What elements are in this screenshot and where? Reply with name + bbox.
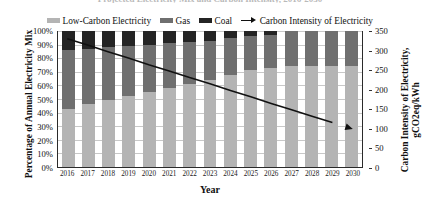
- y-axis-left-tick-label: 100%: [33, 26, 53, 36]
- x-axis-tick-label: 2028: [302, 170, 322, 182]
- legend-item[interactable]: Coal: [199, 16, 232, 26]
- x-axis-tick-label: 2020: [139, 170, 159, 182]
- bar-segment-low-carbon: [82, 104, 95, 167]
- stacked-bar[interactable]: [305, 31, 318, 167]
- stacked-bar[interactable]: [122, 31, 135, 167]
- bar-segment-gas: [264, 35, 277, 68]
- plot-area: [57, 31, 363, 168]
- legend-label: Carbon Intensity of Electricity: [260, 16, 373, 26]
- bar-segment-low-carbon: [264, 68, 277, 167]
- bar-segment-coal: [82, 31, 95, 49]
- bar-segment-low-carbon: [345, 66, 358, 167]
- legend-label: Low-Carbon Electricity: [63, 16, 152, 26]
- stacked-bar[interactable]: [224, 31, 237, 167]
- y-axis-left-tick-label: 80%: [37, 53, 53, 63]
- stacked-bar[interactable]: [102, 31, 115, 167]
- bar-slot: [180, 31, 200, 167]
- y-axis-left-tick-label: 30%: [37, 122, 53, 132]
- bar-segment-coal: [224, 31, 237, 38]
- bar-segment-coal: [122, 31, 135, 46]
- stacked-bar[interactable]: [204, 31, 217, 167]
- stacked-bar[interactable]: [62, 31, 75, 167]
- bar-segment-gas: [143, 45, 156, 93]
- stacked-bar[interactable]: [244, 31, 257, 167]
- stacked-bar[interactable]: [325, 31, 338, 167]
- x-axis-tick-label: 2019: [118, 170, 138, 182]
- y-axis-left-tick-label: 40%: [37, 108, 53, 118]
- x-axis-tick-label: 2027: [281, 170, 301, 182]
- y-axis-right-tick: [369, 109, 372, 110]
- stacked-bar[interactable]: [264, 31, 277, 167]
- x-axis-tick-label: 2021: [159, 170, 179, 182]
- bar-slot: [240, 31, 260, 167]
- bar-segment-coal: [102, 31, 115, 47]
- y-axis-left-tick-label: 60%: [37, 81, 53, 91]
- bar-segment-gas: [305, 31, 318, 66]
- y-axis-right-tick-label: 300: [375, 46, 388, 56]
- bar-slot: [220, 31, 240, 167]
- y-axis-right-title: Carbon Intensity of Electricity, gCO2eq/…: [400, 20, 422, 200]
- legend-item[interactable]: Gas: [160, 16, 190, 26]
- stacked-bar[interactable]: [345, 31, 358, 167]
- bar-segment-coal: [183, 31, 196, 42]
- legend-swatch-icon: [47, 18, 60, 24]
- x-axis-tick-label: 2022: [179, 170, 199, 182]
- bar-slot: [281, 31, 301, 167]
- bar-segment-coal: [204, 31, 217, 41]
- legend-item[interactable]: Low-Carbon Electricity: [47, 16, 151, 26]
- bar-segment-low-carbon: [305, 66, 318, 167]
- bar-segment-low-carbon: [204, 80, 217, 167]
- stacked-bar[interactable]: [163, 31, 176, 167]
- y-axis-right-tick: [369, 31, 372, 32]
- y-axis-right-tick: [369, 51, 372, 52]
- x-axis-tick-label: 2024: [220, 170, 240, 182]
- bar-segment-low-carbon: [325, 66, 338, 167]
- bar-segment-gas: [183, 42, 196, 84]
- y-axis-right-tick-label: 100: [375, 124, 388, 134]
- y-axis-left-tick-label: 10%: [37, 149, 53, 159]
- y-axis-left-tick-label: 50%: [37, 95, 53, 105]
- stacked-bar[interactable]: [183, 31, 196, 167]
- x-axis-tick-label: 2029: [322, 170, 342, 182]
- y-axis-left-title: Percentage of Annual Electricity Mix: [24, 19, 34, 189]
- y-axis-right-tick: [369, 168, 372, 169]
- bar-segment-low-carbon: [244, 70, 257, 167]
- bar-segment-gas: [325, 31, 338, 66]
- y-axis-right-tick: [369, 148, 372, 149]
- bar-slot: [200, 31, 220, 167]
- y-axis-right-tick-label: 150: [375, 104, 388, 114]
- bar-segment-gas: [163, 43, 176, 88]
- x-axis-tick-label: 2030: [343, 170, 363, 182]
- bar-slot: [78, 31, 98, 167]
- bar-segment-low-carbon: [143, 92, 156, 167]
- stacked-bar[interactable]: [285, 31, 298, 167]
- bar-series-group: [58, 31, 362, 167]
- bar-segment-low-carbon: [163, 88, 176, 167]
- x-axis-tick-label: 2018: [98, 170, 118, 182]
- chart-legend: Low-Carbon ElectricityGasCoalCarbon Inte…: [0, 14, 420, 27]
- bar-slot: [342, 31, 362, 167]
- bar-segment-low-carbon: [285, 66, 298, 167]
- legend-label: Gas: [176, 16, 190, 26]
- y-axis-left-tick-label: 0%: [42, 163, 53, 173]
- legend-item[interactable]: Carbon Intensity of Electricity: [241, 16, 373, 26]
- bar-segment-coal: [143, 31, 156, 45]
- bar-segment-coal: [264, 31, 277, 35]
- bar-slot: [301, 31, 321, 167]
- stacked-bar[interactable]: [143, 31, 156, 167]
- bar-segment-coal: [244, 31, 257, 36]
- bar-slot: [119, 31, 139, 167]
- bar-segment-low-carbon: [224, 75, 237, 167]
- bar-segment-gas: [204, 41, 217, 80]
- x-axis-tick-label: 2025: [241, 170, 261, 182]
- bar-slot: [58, 31, 78, 167]
- stacked-bar[interactable]: [82, 31, 95, 167]
- bar-segment-low-carbon: [183, 84, 196, 167]
- y-axis-right-tick-label: 200: [375, 85, 388, 95]
- y-axis-right-tick: [369, 70, 372, 71]
- bar-segment-gas: [82, 49, 95, 105]
- x-axis-tick-label: 2026: [261, 170, 281, 182]
- bar-segment-gas: [62, 50, 75, 108]
- bar-segment-low-carbon: [102, 100, 115, 167]
